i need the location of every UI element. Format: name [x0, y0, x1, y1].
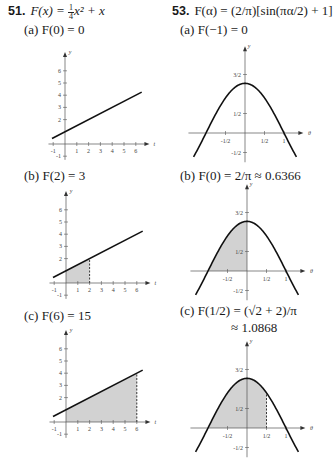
svg-text:-1/2: -1/2 [223, 276, 233, 282]
plot-51-a: yt-1123456-123456 [48, 49, 155, 160]
x-axis-arrow-icon [300, 269, 305, 273]
y-axis-arrow-icon [64, 330, 68, 335]
svg-text:1: 1 [283, 138, 286, 144]
svg-text:1: 1 [75, 148, 78, 154]
svg-text:2: 2 [59, 256, 62, 262]
svg-text:6: 6 [59, 207, 62, 213]
svg-text:6: 6 [59, 346, 62, 352]
svg-text:5: 5 [59, 219, 62, 225]
plot-53-c: yθ-1/21/213/21/2-1/2 [190, 338, 312, 457]
svg-text:-1: -1 [57, 431, 62, 437]
svg-text:1: 1 [76, 287, 79, 293]
svg-text:-1: -1 [56, 153, 61, 159]
x-axis-arrow-icon [145, 281, 150, 285]
svg-text:t: t [155, 280, 157, 286]
svg-text:1/2: 1/2 [233, 111, 241, 117]
svg-text:3: 3 [58, 104, 61, 110]
svg-text:-1/2: -1/2 [221, 138, 231, 144]
svg-text:4: 4 [58, 92, 61, 98]
svg-text:2: 2 [88, 287, 91, 293]
svg-text:4: 4 [112, 287, 115, 293]
svg-text:-1/2: -1/2 [231, 150, 241, 156]
svg-text:2: 2 [59, 395, 62, 401]
svg-text:-1: -1 [57, 292, 62, 298]
y-axis-arrow-icon [243, 46, 247, 51]
svg-text:4: 4 [59, 231, 62, 237]
svg-text:-1/2: -1/2 [233, 445, 243, 451]
svg-text:θ: θ [308, 130, 311, 136]
svg-text:1: 1 [285, 433, 288, 439]
svg-text:1/2: 1/2 [235, 249, 243, 255]
x-axis-arrow-icon [298, 131, 303, 135]
shaded-area [66, 259, 90, 283]
shaded-area [208, 221, 247, 271]
svg-text:5: 5 [123, 148, 126, 154]
svg-text:1: 1 [285, 276, 288, 282]
svg-text:4: 4 [59, 370, 62, 376]
svg-text:3/2: 3/2 [235, 210, 243, 216]
function-line [52, 92, 142, 138]
x-axis-arrow-icon [145, 420, 150, 424]
svg-text:3/2: 3/2 [233, 72, 241, 78]
y-axis-arrow-icon [64, 191, 68, 196]
svg-text:y: y [69, 327, 73, 333]
svg-text:6: 6 [58, 68, 61, 74]
plot-53-a: yθ-1/21/213/21/2-1/2 [188, 43, 310, 162]
svg-text:3: 3 [99, 148, 102, 154]
x-axis-arrow-icon [144, 142, 149, 146]
svg-text:-1: -1 [52, 426, 57, 432]
shaded-area [66, 373, 137, 422]
svg-text:1/2: 1/2 [261, 138, 269, 144]
svg-text:-1: -1 [52, 287, 57, 293]
shaded-area [208, 378, 267, 428]
svg-text:1/2: 1/2 [235, 406, 243, 412]
svg-text:y: y [249, 338, 253, 344]
x-axis-arrow-icon [300, 426, 305, 430]
svg-text:6: 6 [134, 148, 137, 154]
svg-text:y: y [249, 181, 253, 187]
svg-text:2: 2 [58, 117, 61, 123]
svg-text:5: 5 [58, 80, 61, 86]
y-axis-arrow-icon [63, 52, 67, 57]
svg-text:6: 6 [135, 287, 138, 293]
svg-text:1: 1 [76, 426, 79, 432]
plot-51-c: yt-1123456-123456 [49, 327, 156, 438]
svg-text:3: 3 [100, 426, 103, 432]
svg-text:1/2: 1/2 [263, 276, 271, 282]
svg-text:t: t [155, 419, 157, 425]
svg-text:y: y [69, 188, 73, 194]
svg-text:4: 4 [112, 426, 115, 432]
svg-text:t: t [154, 141, 156, 147]
svg-text:5: 5 [124, 426, 127, 432]
y-axis-arrow-icon [245, 341, 249, 346]
svg-text:1/2: 1/2 [263, 433, 271, 439]
svg-text:5: 5 [124, 287, 127, 293]
svg-text:y: y [68, 49, 72, 55]
plot-53-b: yθ-1/21/213/21/2-1/2 [190, 181, 312, 300]
svg-text:-1/2: -1/2 [233, 288, 243, 294]
svg-text:θ: θ [310, 268, 313, 274]
plot-51-b: yt-1123456-123456 [49, 188, 156, 299]
svg-text:3: 3 [59, 243, 62, 249]
svg-text:6: 6 [135, 426, 138, 432]
svg-text:3: 3 [100, 287, 103, 293]
svg-text:y: y [247, 43, 251, 49]
svg-text:3: 3 [59, 382, 62, 388]
svg-text:3/2: 3/2 [235, 367, 243, 373]
svg-text:2: 2 [87, 148, 90, 154]
svg-text:-1/2: -1/2 [223, 433, 233, 439]
svg-text:-1: -1 [51, 148, 56, 154]
svg-text:2: 2 [88, 426, 91, 432]
svg-text:5: 5 [59, 358, 62, 364]
svg-text:θ: θ [310, 425, 313, 431]
function-line [53, 231, 143, 277]
svg-text:4: 4 [111, 148, 114, 154]
y-axis-arrow-icon [245, 184, 249, 189]
